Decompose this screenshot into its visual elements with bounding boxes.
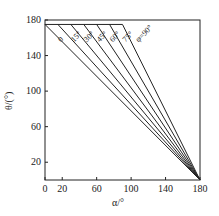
x-axis-label: α/° <box>112 197 124 208</box>
chart: 020601001401802060100140180 015°30°45°60… <box>0 0 219 216</box>
y-tick-label: 100 <box>26 85 41 96</box>
y-tick-label: 140 <box>26 50 41 61</box>
y-axis-label: θ/(°) <box>3 92 15 110</box>
series-line <box>97 24 200 180</box>
y-tick-label: 60 <box>31 121 41 132</box>
x-tick-label: 0 <box>43 183 48 194</box>
x-tick-label: 180 <box>193 183 208 194</box>
series-line <box>45 24 200 180</box>
series-label: 30° <box>82 30 96 44</box>
x-tick-label: 140 <box>158 183 173 194</box>
series-line <box>123 24 201 180</box>
y-tick-label: 180 <box>26 14 41 25</box>
series-lines <box>45 24 200 180</box>
y-tick-label: 20 <box>31 156 41 167</box>
x-tick-label: 20 <box>57 183 67 194</box>
series-label: 75° <box>121 30 135 44</box>
series-labels: 015°30°45°60°75°φ=90° <box>56 23 154 44</box>
series-label: 15° <box>69 30 83 44</box>
series-line <box>71 24 200 180</box>
series-label: φ=90° <box>134 23 155 44</box>
x-tick-label: 60 <box>92 183 102 194</box>
series-label: 0 <box>56 35 65 44</box>
series-line <box>58 24 200 180</box>
series-line <box>84 24 200 180</box>
x-tick-label: 100 <box>124 183 139 194</box>
